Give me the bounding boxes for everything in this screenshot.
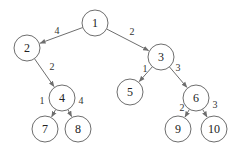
node-label: 7 <box>42 122 48 136</box>
edge-weight: 3 <box>176 62 181 73</box>
node-1: 1 <box>82 10 108 36</box>
node-7: 7 <box>32 116 58 142</box>
edge-weight: 3 <box>213 99 218 110</box>
edge-weight: 1 <box>143 63 148 74</box>
edge-2-4: 2 <box>34 59 54 87</box>
node-label: 1 <box>92 16 98 30</box>
edge-weight: 1 <box>40 95 45 106</box>
node-8: 8 <box>65 116 91 142</box>
node-9: 9 <box>165 116 191 142</box>
node-4: 4 <box>49 85 75 111</box>
node-3: 3 <box>148 44 174 70</box>
node-6: 6 <box>183 85 209 111</box>
node-label: 6 <box>193 91 199 105</box>
arrow-icon <box>52 109 56 116</box>
edge-weight: 4 <box>79 95 84 106</box>
node-label: 4 <box>59 91 65 105</box>
node-label: 2 <box>24 41 30 55</box>
tree-diagram: 422131423 12345678910 <box>0 0 240 148</box>
edge-weight: 2 <box>50 61 55 72</box>
arrow-icon <box>40 27 83 43</box>
edge-3-6: 3 <box>169 62 186 88</box>
arrow-icon <box>107 29 149 51</box>
node-2: 2 <box>14 35 40 61</box>
node-label: 10 <box>208 122 220 136</box>
node-label: 9 <box>175 122 181 136</box>
arrow-icon <box>68 110 72 117</box>
edge-weight: 2 <box>130 26 135 37</box>
arrow-icon <box>203 109 207 117</box>
node-10: 10 <box>201 116 227 142</box>
nodes: 12345678910 <box>14 10 227 142</box>
edge-1-2: 4 <box>40 25 83 44</box>
edge-weight: 4 <box>55 25 60 36</box>
node-label: 3 <box>158 50 164 64</box>
node-label: 8 <box>75 122 81 136</box>
node-5: 5 <box>117 79 143 105</box>
node-label: 5 <box>127 85 133 99</box>
arrow-icon <box>185 109 189 117</box>
edge-1-3: 2 <box>107 26 149 51</box>
